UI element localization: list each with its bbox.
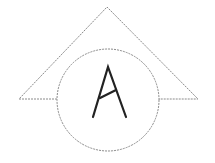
triangle-shape — [19, 7, 198, 99]
diagram-canvas — [0, 0, 215, 163]
letter-a-glyph — [93, 67, 126, 117]
